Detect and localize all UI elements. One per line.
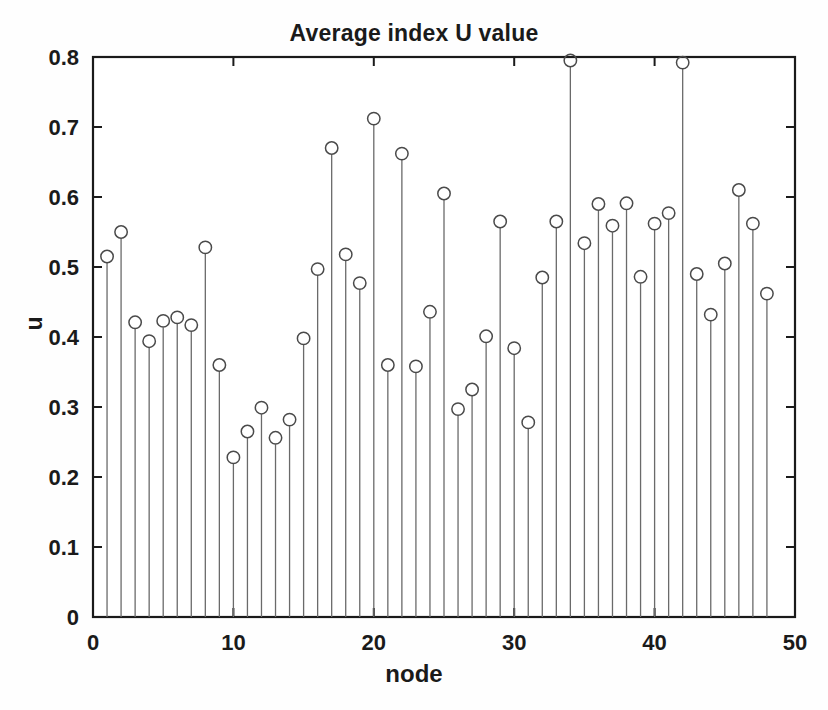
y-tick-label: 0 — [67, 605, 79, 630]
y-tick-label: 0.4 — [48, 325, 79, 350]
x-tick-label: 30 — [502, 630, 526, 655]
y-tick-label: 0.1 — [48, 535, 79, 560]
x-tick-label: 40 — [642, 630, 666, 655]
y-tick-label: 0.7 — [48, 115, 79, 140]
y-tick-label: 0.6 — [48, 185, 79, 210]
figure-container: Average index U value 00.10.20.30.40.50.… — [0, 0, 828, 710]
stem-plot: 00.10.20.30.40.50.60.70.801020304050 — [0, 0, 828, 710]
y-axis-label: u — [21, 284, 48, 364]
x-tick-label: 0 — [87, 630, 99, 655]
y-tick-label: 0.5 — [48, 255, 79, 280]
x-tick-label: 50 — [783, 630, 807, 655]
x-axis-label: node — [0, 660, 828, 688]
x-tick-label: 10 — [221, 630, 245, 655]
y-tick-label: 0.2 — [48, 465, 79, 490]
x-tick-label: 20 — [362, 630, 386, 655]
y-tick-label: 0.3 — [48, 395, 79, 420]
y-tick-label: 0.8 — [48, 45, 79, 70]
